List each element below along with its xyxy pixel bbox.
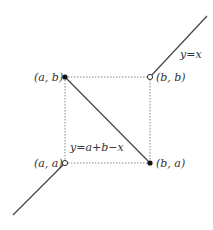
label-reversal: y=a+b−x <box>69 141 124 154</box>
identity-line-upper <box>150 16 207 77</box>
diagram-canvas: (a, b) (b, b) (a, a) (b, a) y=x y=a+b−x <box>0 0 213 230</box>
label-identity: y=x <box>179 48 202 61</box>
point-ba-filled <box>147 160 152 165</box>
label-ab: (a, b) <box>34 71 63 84</box>
label-bb: (b, b) <box>156 71 186 84</box>
label-aa: (a, a) <box>34 157 63 170</box>
identity-line-lower <box>13 163 65 215</box>
point-aa-open <box>62 160 67 165</box>
function-diagram: (a, b) (b, b) (a, a) (b, a) y=x y=a+b−x <box>0 0 213 230</box>
label-ba: (b, a) <box>156 157 185 170</box>
point-bb-open <box>147 74 152 79</box>
